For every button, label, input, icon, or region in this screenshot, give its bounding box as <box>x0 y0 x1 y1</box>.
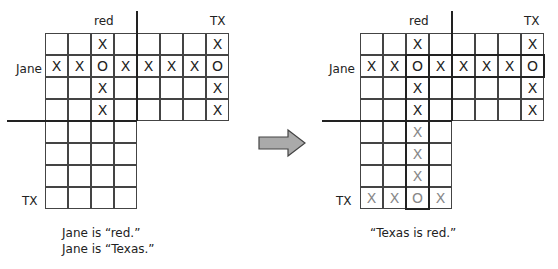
grid-cell <box>45 99 68 121</box>
grid-cell <box>68 77 91 99</box>
grid-cell <box>137 77 160 99</box>
grid-cell: X <box>383 187 406 209</box>
grid-cell: X <box>91 33 114 55</box>
grid-cell: X <box>114 55 137 77</box>
grid-cell <box>45 33 68 55</box>
grid-cell <box>429 121 452 143</box>
grid-cell <box>114 121 137 143</box>
grid-cell: X <box>406 165 429 187</box>
grid-cell <box>383 165 406 187</box>
grid-cell <box>91 187 114 209</box>
grid-cell: O <box>206 55 229 77</box>
grid-cell <box>475 33 498 55</box>
grid-cell <box>475 99 498 121</box>
left-col-label-tx: TX <box>210 14 226 28</box>
right-caption: “Texas is red.” <box>370 226 456 240</box>
grid-cell <box>360 143 383 165</box>
grid-cell <box>114 99 137 121</box>
grid-cell: O <box>91 55 114 77</box>
grid-cell <box>68 165 91 187</box>
grid-cell: O <box>521 55 544 77</box>
right-col-label-tx: TX <box>524 14 540 28</box>
grid-cell <box>429 99 452 121</box>
grid-cell <box>137 33 160 55</box>
grid-cell: X <box>206 33 229 55</box>
grid-cell <box>183 33 206 55</box>
grid-cell <box>360 165 383 187</box>
grid-cell <box>114 143 137 165</box>
grid-cell: X <box>521 99 544 121</box>
grid-cell: X <box>406 77 429 99</box>
grid-cell: X <box>206 77 229 99</box>
grid-cell <box>383 77 406 99</box>
horizontal-divider <box>7 120 137 122</box>
grid-cell <box>183 77 206 99</box>
grid-cell <box>160 77 183 99</box>
grid-cell <box>498 77 521 99</box>
grid-cell: X <box>91 77 114 99</box>
grid-cell <box>360 121 383 143</box>
grid-cell: X <box>383 55 406 77</box>
grid-cell <box>429 165 452 187</box>
grid-cell <box>475 77 498 99</box>
grid-cell <box>91 143 114 165</box>
grid-cell <box>452 33 475 55</box>
grid-cell <box>45 143 68 165</box>
grid-cell <box>452 99 475 121</box>
grid-cell: X <box>429 187 452 209</box>
grid-cell <box>114 165 137 187</box>
grid-cell <box>429 77 452 99</box>
grid-cell: X <box>360 187 383 209</box>
grid-cell: X <box>406 99 429 121</box>
grid-cell <box>360 99 383 121</box>
grid-cell <box>383 33 406 55</box>
vertical-divider <box>136 11 138 121</box>
grid-cell <box>91 121 114 143</box>
grid-cell <box>160 33 183 55</box>
grid-cell <box>68 33 91 55</box>
grid-cell <box>45 165 68 187</box>
grid-cell: X <box>91 99 114 121</box>
vertical-divider <box>451 11 453 121</box>
grid-cell <box>498 33 521 55</box>
grid-cell: X <box>452 55 475 77</box>
right-row-label-jane: Jane <box>329 62 355 76</box>
grid-cell: X <box>68 55 91 77</box>
grid-cell <box>45 77 68 99</box>
grid-cell <box>68 99 91 121</box>
left-caption-line1: Jane is “red.” <box>62 226 140 240</box>
grid-cell: X <box>521 77 544 99</box>
grid-cell: X <box>160 55 183 77</box>
grid-cell <box>137 99 160 121</box>
left-row-label-tx: TX <box>22 194 38 208</box>
grid-cell: O <box>406 55 429 77</box>
grid-cell: X <box>137 55 160 77</box>
grid-cell: O <box>406 187 429 209</box>
grid-cell <box>183 99 206 121</box>
grid-cell: X <box>406 33 429 55</box>
right-row-label-tx: TX <box>336 194 352 208</box>
grid-cell <box>383 143 406 165</box>
grid-cell: X <box>206 99 229 121</box>
grid-cell <box>68 121 91 143</box>
grid-cell: X <box>521 33 544 55</box>
left-col-label-red: red <box>94 14 114 28</box>
grid-cell <box>498 99 521 121</box>
grid-cell <box>160 99 183 121</box>
horizontal-divider <box>322 120 452 122</box>
grid-cell <box>383 121 406 143</box>
grid-cell <box>45 121 68 143</box>
grid-cell <box>45 187 68 209</box>
right-col-label-red: red <box>409 14 429 28</box>
grid-cell <box>114 33 137 55</box>
grid-cell <box>114 187 137 209</box>
left-caption-line2: Jane is “Texas.” <box>62 242 155 256</box>
grid-cell <box>360 77 383 99</box>
grid-cell <box>429 143 452 165</box>
grid-cell: X <box>475 55 498 77</box>
grid-cell: X <box>498 55 521 77</box>
grid-cell <box>114 77 137 99</box>
grid-cell: X <box>406 143 429 165</box>
grid-cell <box>68 143 91 165</box>
left-row-label-jane: Jane <box>16 62 42 76</box>
